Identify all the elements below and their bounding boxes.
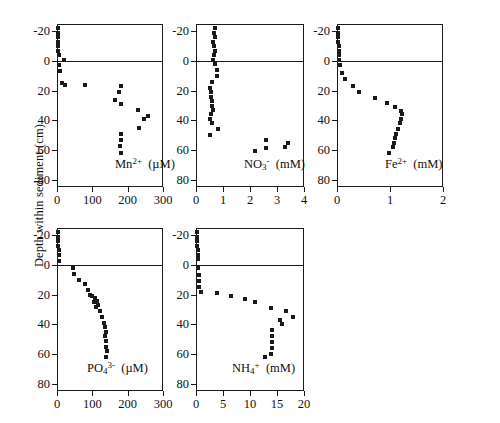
data-point-fe [399, 117, 403, 121]
data-point-mn [62, 58, 66, 62]
x-tick-po4 [163, 391, 164, 396]
data-point-fe [351, 84, 355, 88]
data-point-no3 [210, 99, 214, 103]
data-point-fe [336, 35, 340, 39]
data-point-nh4 [270, 340, 274, 344]
data-point-no3 [253, 149, 257, 153]
data-point-fe [394, 132, 398, 136]
y-tick-mn [52, 120, 57, 121]
y-tick-label-fe: -20 [313, 24, 330, 39]
data-point-fe [393, 136, 397, 140]
data-point-fe [398, 121, 402, 125]
plot-panel-mn: -200204060800100200300Mn2+ (µM) [57, 24, 163, 187]
y-tick-no3 [191, 91, 196, 92]
data-point-no3 [213, 35, 217, 39]
data-point-mn [136, 108, 140, 112]
x-tick-label-mn: 0 [54, 193, 60, 208]
y-tick-label-nh4: 60 [177, 346, 190, 361]
label-charge: + [255, 360, 260, 370]
y-tick-mn [52, 180, 57, 181]
data-point-po4 [57, 253, 61, 257]
x-tick-nh4 [223, 391, 224, 396]
data-point-fe [337, 58, 341, 62]
data-point-no3 [209, 112, 213, 116]
data-point-nh4 [197, 285, 201, 289]
y-tick-fe [332, 120, 337, 121]
data-point-no3 [210, 121, 214, 125]
x-tick-label-mn: 200 [118, 193, 137, 208]
x-tick-label-no3: 1 [220, 193, 226, 208]
data-point-fe [337, 53, 341, 57]
data-point-mn [113, 98, 117, 102]
x-tick-no3 [196, 187, 197, 192]
y-tick-label-fe: 60 [318, 142, 331, 157]
y-tick-label-fe: 40 [318, 113, 331, 128]
x-tick-label-nh4: 5 [220, 397, 226, 412]
y-tick-label-no3: 40 [177, 113, 190, 128]
data-point-no3 [208, 117, 212, 121]
data-point-mn [119, 138, 123, 142]
x-tick-label-no3: 3 [274, 193, 280, 208]
data-point-no3 [264, 138, 268, 142]
x-tick-mn [92, 187, 93, 192]
x-tick-nh4 [250, 391, 251, 396]
y-tick-label-po4: 80 [38, 376, 51, 391]
x-tick-label-po4: 100 [83, 397, 102, 412]
data-point-po4 [83, 282, 87, 286]
y-tick-label-nh4: 20 [177, 287, 190, 302]
data-point-po4 [56, 235, 60, 239]
x-tick-label-nh4: 15 [271, 397, 284, 412]
data-point-fe [338, 63, 342, 67]
data-point-fe [396, 127, 400, 131]
data-point-mn [146, 114, 150, 118]
data-point-nh4 [270, 346, 274, 350]
data-point-no3 [208, 133, 212, 137]
y-tick-po4 [52, 295, 57, 296]
y-tick-no3 [191, 120, 196, 121]
data-point-nh4 [199, 290, 203, 294]
data-point-nh4 [196, 253, 200, 257]
data-point-mn [63, 83, 67, 87]
x-tick-label-no3: 2 [247, 193, 253, 208]
data-point-no3 [215, 68, 219, 72]
data-point-no3 [209, 95, 213, 99]
y-tick-label-po4: -20 [33, 228, 50, 243]
data-point-po4 [94, 305, 98, 309]
data-point-mn [137, 126, 141, 130]
y-tick-label-no3: 60 [177, 142, 190, 157]
x-tick-po4 [92, 391, 93, 396]
data-point-po4 [77, 278, 81, 282]
data-point-fe [385, 101, 389, 105]
y-tick-label-mn: -20 [33, 24, 50, 39]
data-point-po4 [57, 259, 61, 263]
x-tick-label-fe: 0 [334, 193, 340, 208]
data-point-po4 [103, 325, 107, 329]
data-point-po4 [104, 330, 108, 334]
data-point-mn [57, 53, 61, 57]
data-point-po4 [56, 244, 60, 248]
data-point-mn [58, 69, 62, 73]
data-point-nh4 [269, 352, 273, 356]
x-tick-label-no3: 0 [193, 193, 199, 208]
data-point-no3 [213, 26, 217, 30]
data-point-po4 [72, 272, 76, 276]
data-point-mn [56, 26, 60, 30]
plot-panel-fe: -20020406080012Fe2+ (mM) [337, 24, 443, 187]
data-point-mn [56, 49, 60, 53]
data-point-no3 [211, 40, 215, 44]
data-point-nh4 [195, 230, 199, 234]
data-point-mn [56, 44, 60, 48]
data-point-po4 [104, 345, 108, 349]
data-point-fe [357, 90, 361, 94]
y-tick-nh4 [191, 354, 196, 355]
y-tick-po4 [52, 324, 57, 325]
y-tick-label-nh4: 80 [177, 376, 190, 391]
data-point-nh4 [278, 318, 282, 322]
data-point-no3 [212, 31, 216, 35]
x-tick-label-fe: 1 [387, 193, 393, 208]
y-tick-label-mn: 80 [38, 172, 51, 187]
data-point-po4 [86, 288, 90, 292]
y-tick-label-po4: 40 [38, 317, 51, 332]
data-point-mn [119, 102, 123, 106]
data-point-po4 [71, 266, 75, 270]
